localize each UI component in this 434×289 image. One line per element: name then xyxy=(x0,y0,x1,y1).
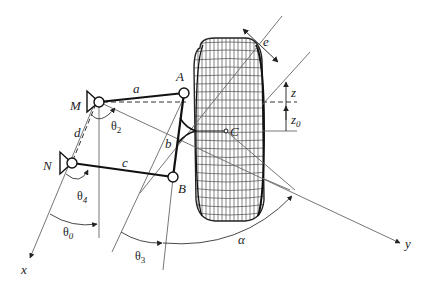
label-alpha: α xyxy=(238,232,246,247)
link-b xyxy=(173,93,184,177)
label-B: B xyxy=(178,181,186,196)
pivot-M xyxy=(87,91,104,112)
label-theta0: θ0 xyxy=(63,225,74,241)
angle-arc-theta4 xyxy=(66,170,88,179)
label-theta2: θ2 xyxy=(111,119,121,135)
label-M: M xyxy=(69,98,82,113)
angle-arc-theta3 xyxy=(121,232,162,243)
link-a xyxy=(99,93,184,102)
label-N: N xyxy=(42,158,53,173)
angle-arc-theta2 xyxy=(91,108,115,119)
label-e: e xyxy=(263,34,269,49)
linkage-diagram: M A N B C a b c d θ2 θ4 θ0 θ3 α e z z0 x… xyxy=(0,0,434,289)
label-link-d: d xyxy=(74,125,81,140)
label-link-a: a xyxy=(133,81,140,96)
label-z: z xyxy=(290,85,296,100)
label-C: C xyxy=(230,124,239,139)
label-z0: z0 xyxy=(290,112,301,129)
label-A: A xyxy=(175,69,184,84)
tire xyxy=(190,30,268,230)
angle-arc-theta0 xyxy=(50,214,97,225)
label-theta3: θ3 xyxy=(135,249,146,265)
joint-A xyxy=(179,88,189,98)
pivot-N xyxy=(60,152,77,174)
label-y-axis: y xyxy=(403,236,411,251)
label-link-b: b xyxy=(165,136,172,151)
joint-B xyxy=(168,172,178,182)
label-theta4: θ4 xyxy=(77,189,88,205)
wheel-center-C xyxy=(224,129,228,133)
label-x-axis: x xyxy=(20,262,27,277)
label-link-c: c xyxy=(122,155,128,170)
